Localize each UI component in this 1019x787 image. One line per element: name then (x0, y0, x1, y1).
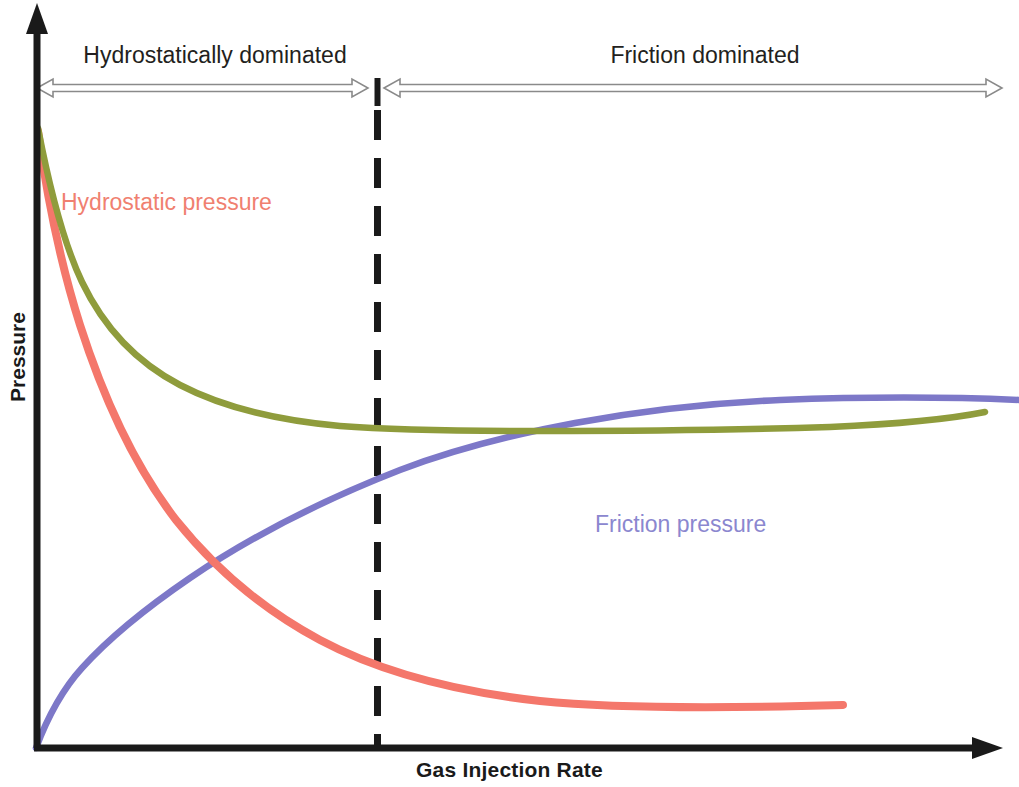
friction-dominated-zone-label: Friction dominated (560, 42, 850, 69)
y-axis-label: Pressure (6, 302, 30, 412)
hydrostatically-dominated-zone-label: Hydrostatically dominated (70, 42, 360, 69)
friction-pressure-series-label: Friction pressure (595, 511, 766, 538)
pressure-vs-gas-injection-rate-chart: Hydrostatically dominated Friction domin… (0, 0, 1019, 787)
axes-layer (0, 0, 1019, 787)
hydrostatic-pressure-series-label: Hydrostatic pressure (61, 189, 272, 216)
x-axis-arrowhead (972, 737, 1003, 759)
y-axis-arrowhead (26, 3, 48, 34)
x-axis-label: Gas Injection Rate (0, 758, 1019, 782)
